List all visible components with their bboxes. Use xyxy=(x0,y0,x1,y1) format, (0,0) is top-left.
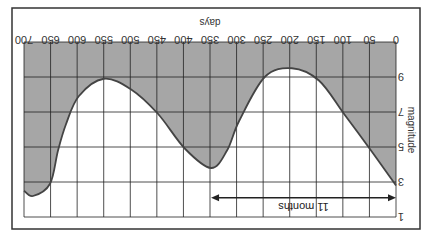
svg-text:50: 50 xyxy=(363,34,375,46)
svg-text:5: 5 xyxy=(398,141,404,153)
svg-text:600: 600 xyxy=(68,34,86,46)
svg-text:0: 0 xyxy=(393,34,399,46)
svg-text:100: 100 xyxy=(334,34,352,46)
svg-text:150: 150 xyxy=(307,34,325,46)
svg-text:3: 3 xyxy=(398,176,404,188)
svg-text:200: 200 xyxy=(281,34,299,46)
svg-text:550: 550 xyxy=(95,34,113,46)
x-axis-title: days xyxy=(199,17,220,28)
svg-text:450: 450 xyxy=(148,34,166,46)
svg-text:350: 350 xyxy=(201,34,219,46)
svg-text:500: 500 xyxy=(121,34,139,46)
svg-text:650: 650 xyxy=(41,34,59,46)
svg-text:400: 400 xyxy=(174,34,192,46)
svg-text:1: 1 xyxy=(398,211,404,223)
svg-text:9: 9 xyxy=(398,71,404,83)
magnitude-vs-days-chart: 0501001502002503003504004505005506006507… xyxy=(0,0,432,239)
x-axis-ticks: 0501001502002503003504004505005506006507… xyxy=(15,34,399,46)
svg-text:300: 300 xyxy=(227,34,245,46)
y-axis-title: magnitude xyxy=(406,107,417,154)
svg-text:700: 700 xyxy=(15,34,33,46)
svg-text:250: 250 xyxy=(254,34,272,46)
svg-text:11 months: 11 months xyxy=(278,201,329,213)
svg-text:7: 7 xyxy=(398,106,404,118)
